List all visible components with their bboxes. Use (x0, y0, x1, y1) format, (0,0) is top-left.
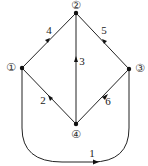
arrow-icon-edge-2 (48, 95, 53, 101)
graph-diagram: ① ② ③ ④ 1 2 3 4 5 6 (0, 0, 148, 166)
edge-label-2: 2 (40, 94, 46, 106)
node-3 (127, 67, 131, 71)
arrow-icon-edge-3 (74, 56, 78, 62)
node-label-4: ④ (71, 128, 81, 141)
node-label-3: ③ (135, 62, 145, 75)
edge-label-3: 3 (79, 55, 85, 67)
edge-label-5: 5 (101, 24, 107, 36)
node-label-1: ① (6, 61, 16, 74)
edge-label-4: 4 (46, 24, 52, 36)
arrow-icon-edge-1 (93, 160, 99, 165)
node-label-2: ② (71, 0, 81, 12)
edge-label-6: 6 (105, 95, 111, 107)
node-1 (20, 66, 24, 70)
edge-6 (76, 69, 129, 124)
node-4 (74, 122, 78, 126)
edge-label-1: 1 (89, 147, 95, 159)
